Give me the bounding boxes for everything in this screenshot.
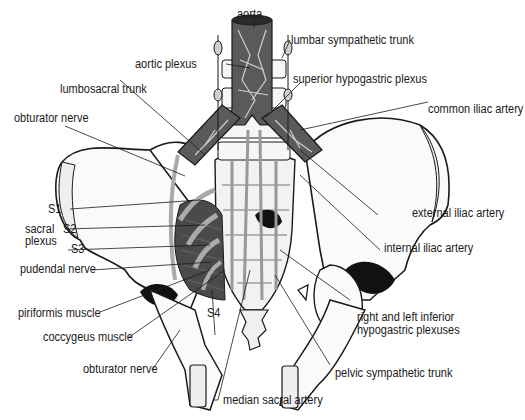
label-s4: S4	[207, 307, 220, 320]
label-aortic-plexus: aortic plexus	[135, 58, 197, 71]
label-piriformis-muscle: piriformis muscle	[18, 307, 101, 320]
label-lumbar-sympathetic-trunk: lumbar sympathetic trunk	[291, 34, 414, 47]
label-pelvic-sympathetic-trunk: pelvic sympathetic trunk	[335, 367, 452, 380]
label-s2: S2	[63, 223, 76, 236]
label-aorta: aorta	[237, 8, 262, 21]
label-lumbosacral-trunk: lumbosacral trunk	[60, 83, 147, 96]
label-coccygeus-muscle: coccygeus muscle	[43, 331, 133, 344]
label-internal-iliac-artery: internal iliac artery	[384, 242, 473, 255]
label-obturator-nerve-bottom: obturator nerve	[83, 363, 158, 376]
coccyx	[240, 310, 268, 350]
label-common-iliac-artery: common iliac artery	[428, 103, 523, 116]
label-median-sacral-artery: median sacral artery	[223, 394, 323, 407]
label-s1: S1	[48, 203, 61, 216]
label-inferior-hypogastric-line2: hypogastric plexuses	[357, 324, 460, 337]
label-s3: S3	[71, 243, 84, 256]
label-external-iliac-artery: external iliac artery	[412, 207, 504, 220]
pelvis-anatomy-figure: aorta lumbar sympathetic trunk aortic pl…	[0, 0, 525, 420]
label-superior-hypogastric-plexus: superior hypogastric plexus	[293, 73, 427, 86]
label-pudendal-nerve: pudendal nerve	[20, 263, 96, 276]
label-sacral-plexus-line2: plexus	[25, 235, 57, 248]
label-obturator-nerve-top: obturator nerve	[14, 112, 89, 125]
sacrum	[215, 153, 295, 311]
